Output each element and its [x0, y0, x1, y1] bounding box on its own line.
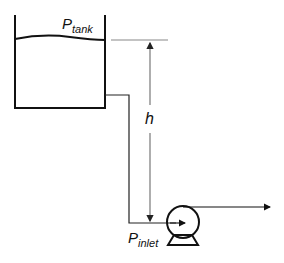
height-label: h — [145, 110, 154, 127]
liquid-surface — [15, 36, 105, 40]
tank-pump-diagram: Ptank h Pinlet — [0, 0, 284, 263]
inlet-pressure-label: Pinlet — [128, 229, 159, 249]
pump-icon — [167, 206, 199, 245]
outlet-pipe — [105, 95, 176, 223]
tank-pressure-label: Ptank — [62, 15, 93, 35]
